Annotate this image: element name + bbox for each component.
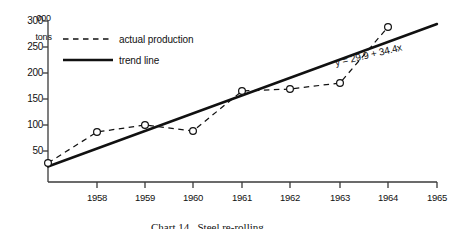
x-axis-ticks bbox=[97, 182, 437, 188]
chart-figure: 000 tons 300 250 200 150 100 50 1958 195… bbox=[0, 0, 468, 229]
data-point-1962 bbox=[287, 86, 294, 93]
y-axis-ticks bbox=[43, 21, 48, 151]
data-point-1957 bbox=[45, 160, 52, 167]
data-point-1960 bbox=[190, 128, 197, 135]
trend-line-series bbox=[48, 24, 437, 167]
data-point-1959 bbox=[142, 122, 149, 129]
data-point-1964 bbox=[385, 24, 392, 31]
actual-production-markers bbox=[45, 24, 392, 167]
plot-area bbox=[0, 0, 468, 229]
data-point-1961 bbox=[239, 88, 246, 95]
data-point-1958 bbox=[94, 129, 101, 136]
actual-production-series bbox=[48, 27, 388, 163]
data-point-1963 bbox=[337, 80, 344, 87]
